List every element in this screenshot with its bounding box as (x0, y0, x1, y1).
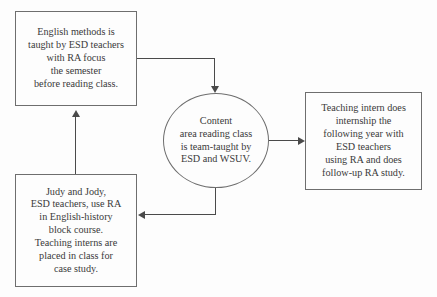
diagram-canvas: English methods is taught by ESD teacher… (0, 0, 437, 297)
edge-content-to-intern-horizontal-segment (266, 140, 299, 141)
node-english-methods-label: English methods is taught by ESD teacher… (25, 26, 127, 90)
edge-content-to-judy-vertical-segment (215, 185, 216, 215)
edge-judy-to-english-vertical-segment (75, 117, 76, 174)
node-teaching-intern: Teaching intern does internship the foll… (305, 92, 422, 190)
edge-english-to-content-arrowhead-icon (211, 86, 219, 93)
node-content-area-label: Content area reading class is team-taugh… (177, 115, 255, 166)
node-judy-and-jody: Judy and Jody, ESD teachers, use RA in E… (15, 174, 137, 287)
edge-content-to-judy-arrowhead-icon (138, 211, 145, 219)
edge-content-to-judy-horizontal-segment (145, 214, 216, 215)
edge-english-to-content-horizontal-segment (137, 58, 215, 59)
edge-judy-to-english-arrowhead-icon (72, 110, 80, 117)
edge-content-to-intern-arrowhead-icon (298, 137, 305, 145)
node-teaching-intern-label: Teaching intern does internship the foll… (318, 102, 409, 179)
node-content-area-reading-class: Content area reading class is team-taugh… (163, 93, 269, 188)
edge-english-to-content-vertical-segment (214, 58, 215, 88)
node-judy-jody-label: Judy and Jody, ESD teachers, use RA in E… (28, 186, 125, 276)
node-english-methods: English methods is taught by ESD teacher… (15, 11, 137, 106)
